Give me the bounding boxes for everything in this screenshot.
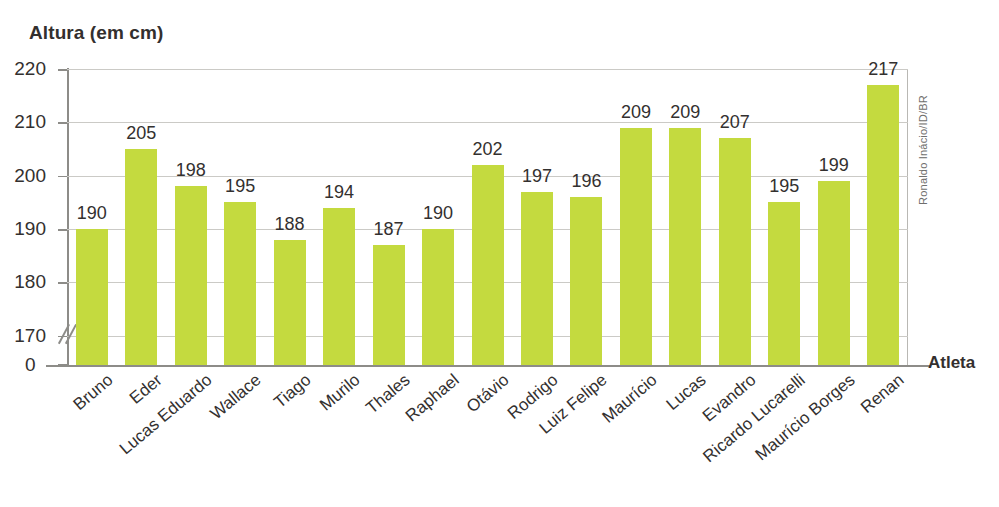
bar-value-label: 194 xyxy=(324,182,354,203)
y-tick-label: 180 xyxy=(14,271,46,293)
x-axis-title: Atleta xyxy=(928,353,975,373)
y-tick-mark xyxy=(58,69,67,71)
bar-group[interactable]: 209 xyxy=(620,69,652,365)
bar[interactable] xyxy=(719,138,751,365)
bar-value-label: 202 xyxy=(472,139,502,160)
category-labels: BrunoEderLucas EduardoWallaceTiagoMurilo… xyxy=(67,369,908,499)
y-tick-label-zero: 0 xyxy=(25,354,36,376)
bar-group[interactable]: 202 xyxy=(472,69,504,365)
bar-group[interactable]: 198 xyxy=(175,69,207,365)
bar-value-label: 197 xyxy=(522,166,552,187)
bar-chart: Altura (em cm) 170180190200210220 0 1902… xyxy=(0,0,999,507)
bar-value-label: 190 xyxy=(423,203,453,224)
bar-value-label: 187 xyxy=(374,219,404,240)
bar-group[interactable]: 199 xyxy=(818,69,850,365)
credit-text: Ronaldo Inácio/ID/BR xyxy=(913,55,933,245)
bar-value-label: 207 xyxy=(720,112,750,133)
y-tick-label: 220 xyxy=(14,58,46,80)
chart-title: Altura (em cm) xyxy=(29,22,163,44)
bar-group[interactable]: 197 xyxy=(521,69,553,365)
bar-value-label: 209 xyxy=(621,102,651,123)
y-tick-mark xyxy=(58,229,67,231)
bar-value-label: 205 xyxy=(126,123,156,144)
bar-value-label: 188 xyxy=(275,214,305,235)
y-tick-mark xyxy=(58,282,67,284)
bar-group[interactable]: 194 xyxy=(323,69,355,365)
y-tick-mark xyxy=(58,176,67,178)
bar-value-label: 199 xyxy=(819,155,849,176)
bar[interactable] xyxy=(323,208,355,365)
bar-group[interactable]: 196 xyxy=(570,69,602,365)
bars-container: 1902051981951881941871902021971962092092… xyxy=(67,69,908,365)
bar-group[interactable]: 190 xyxy=(422,69,454,365)
bar-group[interactable]: 209 xyxy=(669,69,701,365)
bar-value-label: 195 xyxy=(225,176,255,197)
x-category-text: Bruno xyxy=(69,369,118,415)
y-tick-label: 190 xyxy=(14,218,46,240)
bar-value-label: 196 xyxy=(571,171,601,192)
bar-value-label: 195 xyxy=(769,176,799,197)
credit-label: Ronaldo Inácio/ID/BR xyxy=(917,95,929,205)
bar-value-label: 217 xyxy=(868,59,898,80)
bar-group[interactable]: 205 xyxy=(125,69,157,365)
y-tick-label: 210 xyxy=(14,111,46,133)
y-tick-mark xyxy=(58,122,67,124)
bar[interactable] xyxy=(175,186,207,365)
bar[interactable] xyxy=(76,229,108,365)
y-tick-label: 170 xyxy=(14,325,46,347)
y-tick-label: 200 xyxy=(14,165,46,187)
bar-group[interactable]: 195 xyxy=(224,69,256,365)
bar-group[interactable]: 195 xyxy=(768,69,800,365)
bar-value-label: 209 xyxy=(670,102,700,123)
x-category-text: Eder xyxy=(126,369,168,409)
bar[interactable] xyxy=(125,149,157,365)
bar-group[interactable]: 190 xyxy=(76,69,108,365)
bar-group[interactable]: 187 xyxy=(373,69,405,365)
y-tick-mark-zero xyxy=(58,364,67,366)
bar-group[interactable]: 207 xyxy=(719,69,751,365)
bar-value-label: 198 xyxy=(176,160,206,181)
bar-value-label: 190 xyxy=(77,203,107,224)
